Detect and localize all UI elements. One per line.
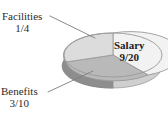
leader-line-facilities bbox=[50, 16, 95, 38]
pie-label-salary-value: 9/20 bbox=[114, 51, 145, 63]
pie-label-salary-category: Salary bbox=[114, 39, 145, 51]
pie-label-benefits: Benefits 3/10 bbox=[1, 85, 38, 110]
pie-label-facilities-value: 1/4 bbox=[2, 22, 42, 34]
pie-label-facilities-category: Facilities bbox=[2, 10, 42, 22]
pie-label-facilities: Facilities 1/4 bbox=[2, 10, 42, 35]
pie-label-salary: Salary 9/20 bbox=[114, 39, 145, 64]
pie-label-benefits-category: Benefits bbox=[1, 85, 38, 97]
pie-label-benefits-value: 3/10 bbox=[1, 97, 38, 109]
pie-chart-figure: · · · Faciliti bbox=[0, 0, 168, 120]
